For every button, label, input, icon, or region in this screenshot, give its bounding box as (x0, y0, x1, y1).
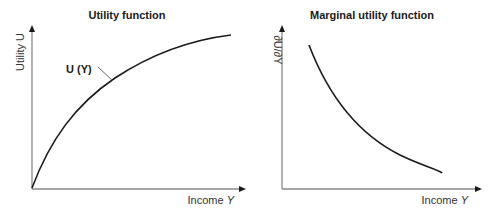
utility-curve (32, 35, 231, 188)
figure: Utility function Utility U Income Y U (Y… (0, 0, 496, 216)
chart-title: Marginal utility function (310, 9, 434, 21)
y-axis-label: Utility U (14, 33, 26, 71)
y-axis-label: ∂U/∂Y (272, 35, 284, 65)
y-axis-arrow-icon (279, 25, 285, 32)
marginal-utility-curve (309, 45, 442, 173)
marginal-utility-chart: Marginal utility function ∂U/∂Y Income Y (272, 9, 482, 206)
x-axis-arrow-icon (475, 186, 482, 192)
x-axis-label: Income Y (422, 194, 469, 206)
x-axis-label: Income Y (188, 194, 235, 206)
curve-label: U (Y) (66, 63, 92, 75)
chart-title: Utility function (89, 9, 166, 21)
curve-label-leader (98, 67, 113, 81)
utility-chart: Utility function Utility U Income Y U (Y… (14, 9, 246, 206)
y-axis-arrow-icon (29, 25, 35, 32)
x-axis-arrow-icon (239, 186, 246, 192)
